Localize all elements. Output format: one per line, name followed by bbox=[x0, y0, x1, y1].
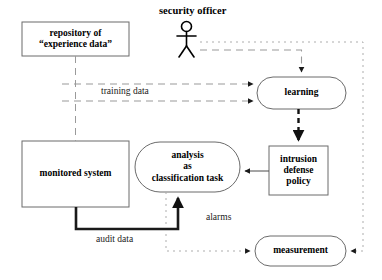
security-officer-label: security officer bbox=[159, 5, 226, 16]
edge-label-audit-data: audit data bbox=[96, 234, 133, 244]
security-officer-icon bbox=[177, 22, 196, 58]
diagram-graphics bbox=[0, 0, 382, 280]
edge-label-training-data: training data bbox=[101, 86, 149, 96]
diagram-canvas: security officer repository of “experien… bbox=[0, 0, 382, 280]
node-monitored-system-shape bbox=[22, 141, 129, 207]
edge-label-alarms: alarms bbox=[206, 212, 231, 222]
edge-measurement-to-learning bbox=[346, 93, 353, 251]
node-analysis-shape bbox=[135, 142, 240, 192]
node-learning-shape bbox=[257, 77, 346, 109]
edge-officer-to-learning bbox=[200, 50, 302, 72]
node-measurement-shape bbox=[255, 236, 346, 266]
node-repository-shape bbox=[22, 22, 129, 56]
node-intrusion-defense-policy-shape bbox=[269, 146, 328, 195]
